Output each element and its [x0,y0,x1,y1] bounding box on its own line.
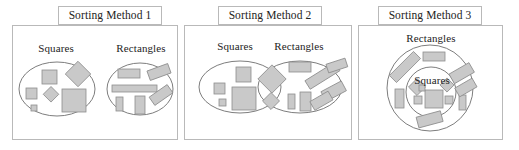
set-label-rectangles-3: Rectangles [398,32,464,44]
set-label-squares-2: Squares [205,40,265,52]
panel-title-sorting-method-3: Sorting Method 3 [378,6,482,25]
panel-title-sorting-method-2: Sorting Method 2 [218,6,322,25]
panel-title-sorting-method-1: Sorting Method 1 [58,6,162,25]
set-label-squares-1: Squares [26,42,86,54]
set-label-rectangles-1: Rectangles [108,42,174,54]
sorting-methods-figure: Sorting Method 1 Squares Rectangles Sort… [0,0,519,150]
set-label-squares-3: Squares [404,74,460,86]
set-label-rectangles-2: Rectangles [266,40,332,52]
